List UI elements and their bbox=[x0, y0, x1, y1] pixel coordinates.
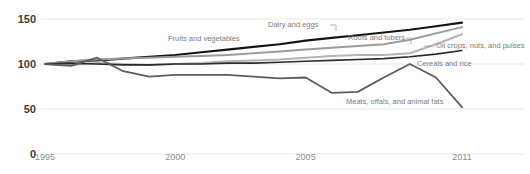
x-tick-label-1995: 1995 bbox=[35, 152, 55, 162]
x-tick-label-2000: 2000 bbox=[165, 152, 185, 162]
y-tick-label-50: 50 bbox=[24, 103, 36, 115]
y-tick-label-100: 100 bbox=[18, 58, 36, 70]
chart-plot-area: 150100500 1995200020052011 Fruits and ve… bbox=[0, 0, 530, 174]
series-label-cereals-and-rice: Cereals and rice bbox=[417, 59, 472, 68]
annotation-leader bbox=[330, 25, 336, 31]
y-tick-label-150: 150 bbox=[18, 13, 36, 25]
x-tick-label-2011: 2011 bbox=[452, 152, 471, 162]
series-label-fruits-and-vegetables: Fruits and vegetables bbox=[168, 34, 240, 43]
series-label-dairy-and-eggs: Dairy and eggs bbox=[268, 20, 319, 29]
series-label-meats-offals-and-animal-fats: Meats, offals, and animal fats bbox=[346, 97, 444, 106]
series-label-roots-and-tubers: Roots and tubers bbox=[348, 33, 405, 42]
indexed-food-production-chart: 150100500 1995200020052011 Fruits and ve… bbox=[0, 0, 530, 174]
x-tick-label-2005: 2005 bbox=[296, 152, 316, 162]
y-axis-tick-labels: 150100500 bbox=[18, 13, 36, 160]
series-label-oil-crops-nuts-and-pulses: Oil crops, nuts, and pulses bbox=[436, 41, 525, 50]
